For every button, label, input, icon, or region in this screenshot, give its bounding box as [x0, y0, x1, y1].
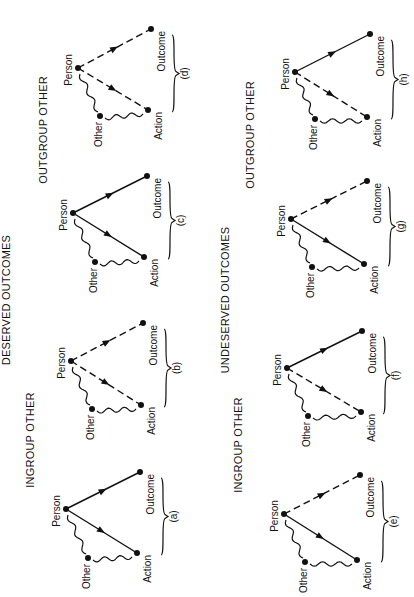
node-other [305, 413, 311, 419]
node-person [68, 358, 74, 364]
node-person [70, 210, 76, 216]
label-other: Other [93, 121, 104, 147]
label-person: Person [269, 500, 280, 532]
grouping-brace [168, 182, 175, 259]
node-person [292, 69, 298, 75]
heading-ingroup-other-undeserved: INGROUP OTHER [232, 397, 244, 492]
grouping-brace [383, 337, 390, 414]
wavy-link-person-other [72, 367, 90, 405]
arrowhead-person-outcome [328, 51, 337, 58]
node-person [288, 216, 294, 222]
wavy-link-other-action [313, 414, 356, 420]
node-outcome [357, 472, 363, 478]
panel-label: (b) [171, 362, 182, 374]
wavy-link-other-action [317, 266, 359, 271]
node-outcome [359, 328, 365, 334]
label-outcome: Outcome [365, 477, 376, 518]
node-other [312, 116, 318, 122]
node-outcome [364, 178, 370, 184]
node-other [85, 555, 91, 561]
arrowhead-person-action [101, 378, 110, 385]
label-outcome: Outcome [156, 31, 167, 72]
panel-d: PersonOutcomeActionOther(d) [63, 26, 190, 147]
label-other: Other [81, 563, 92, 589]
node-other [97, 113, 103, 119]
label-action: Action [366, 414, 377, 442]
heading-outgroup-other-undeserved: OUTGROUP OTHER [244, 81, 256, 189]
wavy-link-person-other [285, 520, 303, 558]
arrowhead-person-action [315, 532, 324, 539]
label-outcome: Outcome [375, 36, 386, 77]
arrowhead-person-action [96, 526, 105, 533]
wavy-link-person-other [68, 515, 87, 554]
wavy-link-other-action [100, 260, 139, 266]
arrowhead-person-outcome [317, 493, 326, 500]
node-action [364, 114, 370, 120]
node-person [281, 511, 287, 517]
arrowhead-person-outcome [324, 198, 333, 205]
node-action [354, 557, 360, 563]
heading-undeserved-outcomes: UNDESERVED OUTCOMES [219, 227, 231, 374]
grouping-brace [164, 329, 171, 407]
node-other [89, 406, 95, 412]
panel-f: PersonOutcomeActionOther(f) [272, 328, 401, 447]
arrowhead-person-action [108, 84, 117, 91]
grouping-brace [381, 481, 388, 562]
node-action [361, 261, 367, 267]
panel-label: (g) [395, 220, 406, 232]
wavy-link-other-action [105, 113, 143, 120]
arrowhead-person-outcome [105, 193, 114, 200]
node-other [302, 559, 308, 565]
label-action: Action [146, 407, 157, 435]
panel-label: (c) [175, 215, 186, 227]
wavy-link-other-action [93, 556, 132, 562]
node-outcome [367, 31, 373, 37]
arrowhead-person-action [326, 90, 335, 97]
grouping-brace [388, 187, 395, 266]
label-other: Other [88, 267, 99, 293]
node-action [358, 409, 364, 415]
label-other: Other [308, 124, 319, 150]
grouping-brace [161, 478, 168, 555]
panel-b: PersonOutcomeActionOther(b) [56, 320, 182, 440]
label-outcome: Outcome [152, 178, 163, 219]
node-action [141, 254, 147, 260]
label-person: Person [63, 54, 74, 86]
label-action: Action [149, 259, 160, 287]
label-outcome: Outcome [367, 333, 378, 374]
attribution-diagram-figure: DESERVED OUTCOMES UNDESERVED OUTCOMES IN… [0, 0, 414, 597]
panel-label: (h) [398, 73, 409, 85]
wavy-link-person-other [80, 74, 99, 112]
arrowhead-person-outcome [320, 348, 329, 354]
heading-deserved-outcomes: DESERVED OUTCOMES [0, 235, 12, 365]
node-outcome [137, 469, 143, 475]
arrowhead-person-outcome [110, 47, 119, 54]
wavy-link-other-action [310, 562, 352, 566]
panel-c: PersonOutcomeActionOther(c) [58, 173, 186, 293]
label-action: Action [142, 555, 153, 583]
panel-g: PersonOutcomeActionOther(g) [276, 178, 406, 298]
node-outcome [140, 320, 146, 326]
label-person: Person [280, 58, 291, 90]
label-outcome: Outcome [372, 183, 383, 224]
label-other: Other [85, 414, 96, 440]
wavy-link-person-other [296, 78, 313, 115]
panel-h: PersonOutcomeActionOther(h) [280, 31, 409, 150]
label-person: Person [58, 199, 69, 231]
arrowhead-person-action [319, 385, 328, 392]
panel-e: PersonOutcomeActionOther(e) [269, 472, 399, 593]
label-outcome: Outcome [148, 325, 159, 366]
node-action [138, 402, 144, 408]
label-outcome: Outcome [145, 474, 156, 515]
heading-outgroup-other-deserved: OUTGROUP OTHER [37, 76, 49, 184]
wavy-link-person-other [75, 219, 94, 258]
grouping-brace [172, 35, 179, 112]
label-person: Person [276, 205, 287, 237]
node-action [145, 107, 151, 113]
arrowhead-person-outcome [98, 489, 107, 496]
panel-label: (d) [179, 67, 190, 79]
label-action: Action [372, 119, 383, 147]
panel-label: (f) [390, 371, 401, 380]
label-action: Action [362, 562, 373, 590]
label-other: Other [301, 421, 312, 447]
